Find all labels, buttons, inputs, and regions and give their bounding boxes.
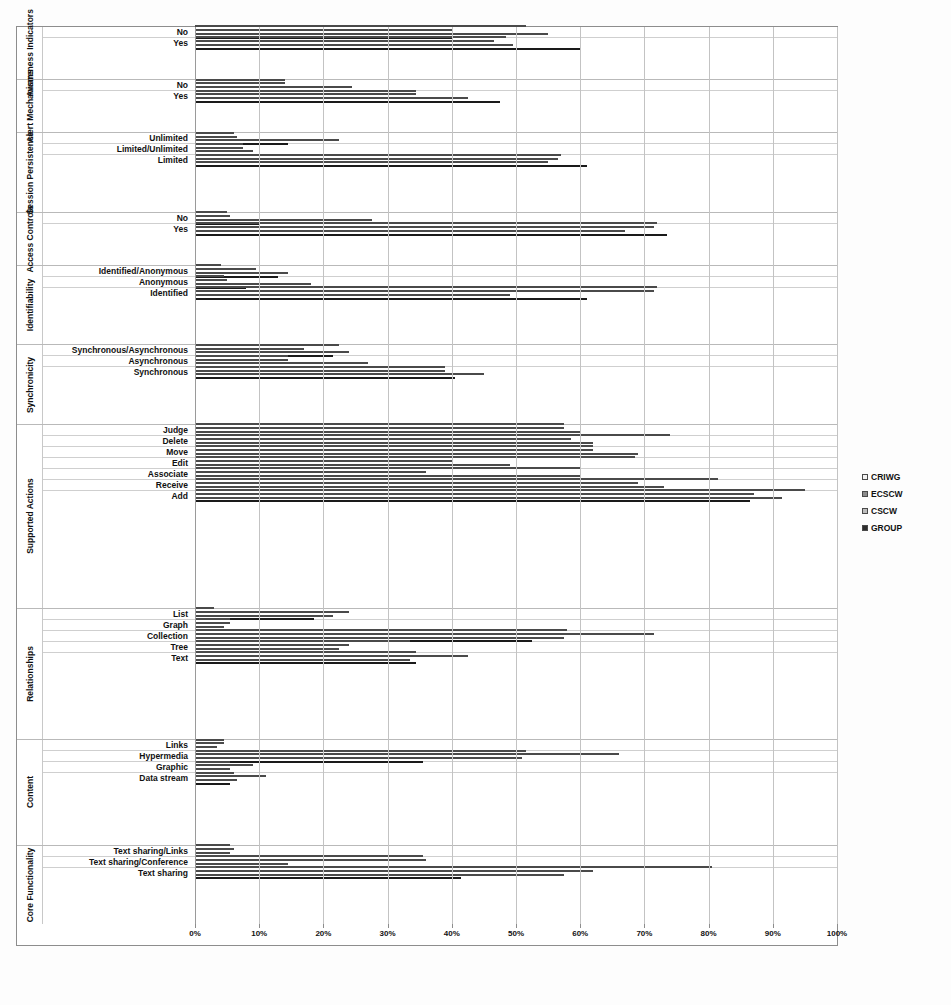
group-axis-label: Identifiability [17, 266, 43, 344]
bar-ecscw [195, 226, 654, 228]
bar-ecscw [195, 764, 253, 766]
x-axis-tick-label: 0% [189, 929, 201, 938]
bar-criwg [195, 750, 526, 752]
bar-group [195, 773, 837, 783]
bar-ecscw [195, 460, 452, 462]
chart-row: Yes [43, 38, 837, 48]
bar-ecscw [195, 215, 230, 217]
bar-criwg [195, 844, 230, 846]
bar-ecscw [195, 622, 230, 624]
x-axis-tick-label: 80% [701, 929, 717, 938]
chart-group: IdentifiabilityIdentified/AnonymousAnony… [17, 266, 837, 345]
bar-ecscw [195, 279, 227, 281]
chart-row: Unlimited [43, 133, 837, 144]
category-label: Asynchronous [43, 356, 195, 366]
group-axis-label: Content [17, 740, 43, 844]
x-axis-tick-label: 70% [636, 929, 652, 938]
legend-label: CRIWG [871, 472, 900, 482]
chart-page: Awareness IndicatorsNoYesAlert Mechanism… [0, 0, 951, 1005]
bar-ecscw [195, 655, 468, 657]
category-label: Data stream [43, 773, 195, 783]
bar-ecscw [195, 859, 426, 861]
bars-area [195, 288, 837, 298]
bar-criwg [195, 445, 593, 447]
bar-ecscw [195, 644, 349, 646]
bar-cscw [195, 486, 664, 488]
bar-group [195, 783, 230, 785]
bar-criwg [195, 651, 416, 653]
bar-criwg [195, 489, 805, 491]
bar-ecscw [195, 848, 234, 850]
group-axis-label: Alert Mechanisms [17, 80, 43, 132]
bars-area [195, 762, 837, 772]
bars-area [195, 133, 837, 143]
bar-cscw [195, 464, 510, 466]
bar-cscw [195, 33, 548, 35]
bar-ecscw [195, 775, 266, 777]
category-label: List [43, 609, 195, 619]
bar-cscw [195, 294, 510, 296]
bar-ecscw [195, 427, 564, 429]
bars-area [195, 224, 837, 234]
legend-label: GROUP [871, 523, 902, 533]
bar-cscw [195, 863, 288, 865]
group-rows: ListGraphCollectionTreeText [43, 609, 837, 740]
bar-group [195, 491, 837, 501]
category-label: Identified/Anonymous [43, 266, 195, 276]
bar-criwg [195, 286, 657, 288]
x-axis-tick [516, 924, 517, 928]
category-label: Limited [43, 155, 195, 165]
group-rows: NoYes [43, 27, 837, 79]
x-axis-tick [709, 924, 710, 928]
chart-row: Data stream [43, 773, 837, 783]
bar-group [195, 500, 750, 502]
bar-cscw [195, 757, 522, 759]
x-axis-tick-label: 60% [572, 929, 588, 938]
category-label: Yes [43, 38, 195, 48]
x-axis-tick-label: 30% [380, 929, 396, 938]
category-label: Links [43, 740, 195, 750]
bar-group [195, 234, 667, 236]
bar-criwg [195, 423, 564, 425]
bar-ecscw [195, 82, 285, 84]
bar-criwg [195, 434, 670, 436]
bars-area [195, 367, 837, 377]
bar-cscw [195, 852, 230, 854]
x-axis-tick [323, 924, 324, 928]
bar-criwg [195, 456, 635, 458]
group-rows: NoYes [43, 80, 837, 132]
group-rows: JudgeDeleteMoveEditAssociateReceiveAdd [43, 425, 837, 608]
bar-group [195, 298, 587, 300]
bar-ecscw [195, 290, 654, 292]
bar-group [195, 868, 837, 878]
bar-criwg [195, 79, 285, 81]
bar-cscw [195, 139, 339, 141]
bar-cscw [195, 779, 237, 781]
bar-group [195, 101, 500, 103]
x-axis-tick-label: 90% [765, 929, 781, 938]
legend-swatch-cscw [862, 508, 868, 514]
group-axis-label: Synchronicity [17, 345, 43, 423]
bar-criwg [195, 143, 243, 145]
group-rows: Text sharing/LinksText sharing/Conferenc… [43, 846, 837, 924]
category-label: Delete [43, 436, 195, 446]
bar-group [195, 38, 837, 48]
group-rows: NoYes [43, 213, 837, 265]
group-axis-label-text: Synchronicity [25, 356, 35, 412]
category-label: Collection [43, 631, 195, 641]
group-axis-label: Supported Actions [17, 425, 43, 608]
legend-swatch-ecscw [862, 491, 868, 497]
bar-cscw [195, 648, 339, 650]
chart-row: Hypermedia [43, 751, 837, 762]
x-axis-tick-label: 50% [508, 929, 524, 938]
bar-ecscw [195, 359, 288, 361]
group-axis-label: Core Functionality [17, 846, 43, 924]
bar-criwg [195, 366, 445, 368]
bar-cscw [195, 44, 513, 46]
group-axis-label-text: Access Controls [25, 205, 35, 272]
category-label: Graphic [43, 762, 195, 772]
bar-group [195, 377, 455, 379]
bar-criwg [195, 855, 423, 857]
x-axis: 0%10%20%30%40%50%60%70%80%90%100% [195, 924, 837, 946]
chart-group: Access ControlsNoYes [17, 213, 837, 266]
